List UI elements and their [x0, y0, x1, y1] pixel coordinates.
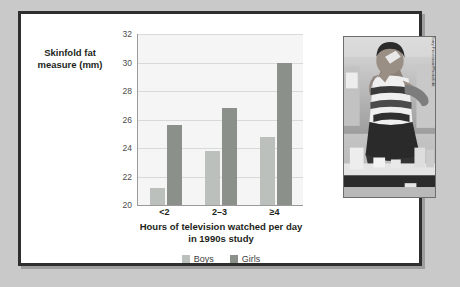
- legend-swatch-girls-icon: [230, 255, 238, 263]
- y-axis-tick-label: 24: [123, 143, 132, 153]
- legend-item-girls: Girls: [230, 254, 261, 264]
- photo-block: Tony Freeman/PhotoEdit: [343, 36, 446, 198]
- bar-girls-0: [167, 125, 182, 205]
- chart-plot-area: [137, 34, 303, 206]
- y-axis-tick-label: 30: [123, 58, 132, 68]
- y-axis-tick-labels: 20222426283032: [113, 34, 135, 206]
- y-axis-tick-label: 28: [123, 86, 132, 96]
- photo-credit: Tony Freeman/PhotoEdit: [428, 36, 438, 198]
- x-axis-tick-labels: <22–3≥4: [137, 207, 303, 220]
- legend-item-boys: Boys: [182, 254, 214, 264]
- bar-boys-1: [205, 151, 220, 205]
- bar-boys-0: [150, 188, 165, 205]
- y-axis-tick-label: 26: [123, 115, 132, 125]
- legend-swatch-boys-icon: [182, 255, 190, 263]
- y-axis-tick-label: 20: [123, 200, 132, 210]
- x-axis-title: Hours of television watched per day in 1…: [81, 221, 361, 245]
- figure-frame: Skinfold fat measure (mm) 20222426283032…: [18, 11, 422, 266]
- bar-girls-1: [222, 108, 237, 205]
- y-axis-tick-label: 32: [123, 29, 132, 39]
- y-axis-tick-label: 22: [123, 172, 132, 182]
- bar-girls-2: [277, 63, 292, 206]
- legend-label-girls: Girls: [242, 254, 261, 264]
- chart-legend: Boys Girls: [81, 254, 361, 264]
- gridline: [138, 34, 303, 35]
- x-axis-tick-label: <2: [159, 207, 169, 217]
- gridline: [138, 205, 303, 206]
- y-axis-title: Skinfold fat measure (mm): [31, 47, 109, 70]
- boy-eating-junk-food-photo: [343, 36, 436, 198]
- x-axis-title-line-2: in 1990s study: [81, 233, 361, 245]
- chart-plot-wrapper: 20222426283032: [113, 34, 303, 206]
- x-axis-tick-label: 2–3: [212, 207, 227, 217]
- x-axis-title-line-1: Hours of television watched per day: [81, 221, 361, 233]
- x-axis-tick-label: ≥4: [270, 207, 280, 217]
- legend-label-boys: Boys: [194, 254, 214, 264]
- bar-boys-2: [260, 137, 275, 205]
